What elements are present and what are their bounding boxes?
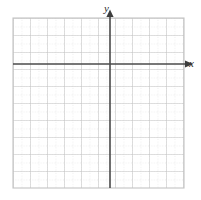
coordinate-grid-svg	[0, 0, 201, 200]
grid-major	[13, 18, 184, 188]
graph-figure: y x	[0, 0, 201, 200]
x-axis-label: x	[189, 58, 194, 69]
y-axis-label: y	[104, 3, 109, 14]
